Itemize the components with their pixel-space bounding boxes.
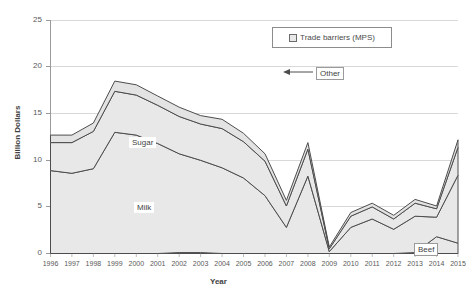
area-chart: 25 20 15 10 5 0 199619971998199920002001… bbox=[0, 0, 469, 297]
series-bands bbox=[51, 81, 459, 253]
y-tick-label-15: 15 bbox=[18, 108, 42, 117]
legend-swatch-icon bbox=[289, 34, 297, 42]
chart-legend: Trade barriers (MPS) bbox=[272, 27, 392, 48]
y-axis-title: Billion Dollars bbox=[13, 93, 22, 173]
series-label-sugar: Sugar bbox=[129, 137, 156, 148]
y-tick-label-25: 25 bbox=[18, 15, 42, 24]
y-tick-label-0: 0 bbox=[18, 248, 42, 257]
legend-entry-label: Trade barriers (MPS) bbox=[300, 33, 375, 42]
series-label-other: Other bbox=[316, 67, 344, 80]
y-tick-marks bbox=[46, 21, 50, 254]
series-label-beef: Beef bbox=[414, 243, 438, 256]
chart-plot-area bbox=[0, 0, 469, 297]
series-label-milk: Milk bbox=[134, 202, 154, 213]
x-tick-label-2015: 2015 bbox=[444, 259, 469, 268]
x-axis-title: Year bbox=[210, 277, 227, 286]
y-tick-label-10: 10 bbox=[18, 155, 42, 164]
y-tick-label-20: 20 bbox=[18, 61, 42, 70]
y-tick-label-5: 5 bbox=[18, 201, 42, 210]
other-callout-arrow bbox=[283, 69, 313, 75]
